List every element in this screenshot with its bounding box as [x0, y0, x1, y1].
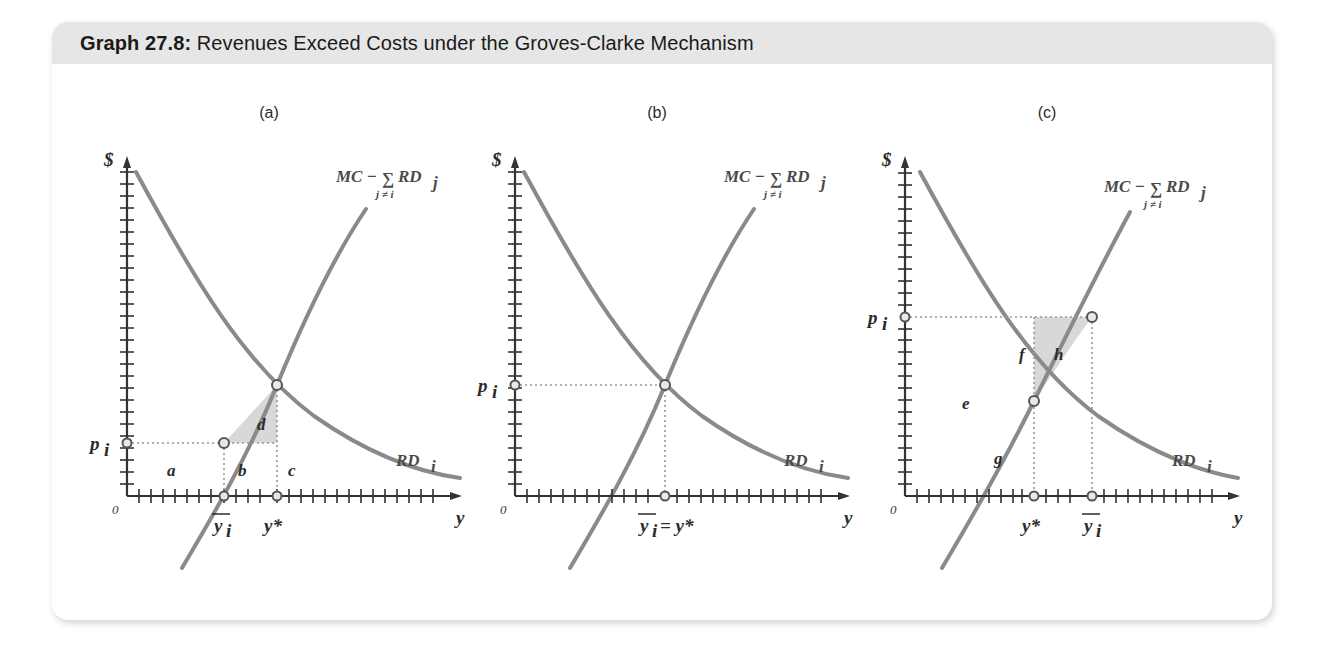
- curve-label-mc-text: MC −: [723, 167, 765, 186]
- svg-text:p: p: [476, 375, 488, 396]
- curve-rd-i: [524, 172, 848, 478]
- curve-label-mc: MC − ∑ j ≠ i RD j: [335, 167, 438, 200]
- marker-reported-price-point: [1087, 312, 1097, 322]
- guide-lines: [515, 385, 665, 496]
- region-label-b: b: [238, 461, 247, 480]
- figure-number: Graph 27.8:: [80, 32, 191, 54]
- marker-price-axis: [511, 381, 520, 390]
- panel-b-chart: $ y 0 p i MC − ∑ j ≠ i RD j: [452, 64, 862, 620]
- svg-text:i: i: [104, 439, 110, 460]
- panel-b: (b): [452, 64, 862, 620]
- svg-text:RD: RD: [783, 451, 808, 470]
- svg-text:i: i: [1207, 457, 1212, 476]
- region-label-h: h: [1054, 345, 1063, 364]
- region-label-c: c: [288, 461, 296, 480]
- svg-text:= y*: = y*: [660, 515, 694, 536]
- svg-text:p: p: [866, 307, 878, 328]
- curve-label-mc: MC − ∑ j ≠ i RD j: [1103, 177, 1206, 210]
- svg-text:RD: RD: [395, 451, 420, 470]
- panels-container: (a): [52, 64, 1272, 620]
- marker-price-axis: [123, 439, 132, 448]
- y-axis-label: $: [881, 149, 892, 170]
- origin-label: 0: [890, 502, 897, 517]
- curve-label-rdj: RD: [1165, 177, 1190, 196]
- panel-c-chart: $ y 0 p i MC − ∑ j ≠ i RD j: [842, 64, 1252, 620]
- curve-label-mc-text: MC −: [335, 167, 377, 186]
- svg-text:y: y: [212, 515, 223, 536]
- curve-label-mc: MC − ∑ j ≠ i RD j: [723, 167, 826, 200]
- svg-text:i: i: [431, 457, 436, 476]
- origin-label: 0: [112, 502, 119, 517]
- y-axis-arrow: [901, 156, 909, 168]
- panel-a-chart: $ y 0 p i MC − ∑ j ≠ i RD j: [64, 64, 474, 620]
- svg-text:i: i: [652, 520, 658, 541]
- region-label-a: a: [167, 461, 176, 480]
- region-label-d: d: [257, 415, 266, 434]
- marker-reported-price-point: [219, 438, 229, 448]
- curve-label-sum-subscript: j ≠ i: [1142, 198, 1163, 210]
- figure-card: Graph 27.8: Revenues Exceed Costs under …: [52, 22, 1272, 620]
- marker-x-efficient: [661, 492, 670, 501]
- price-label-pi: p i: [476, 375, 498, 402]
- curve-label-rdj-sub: j: [818, 173, 826, 192]
- x-axis-arrow: [1228, 492, 1240, 500]
- curve-label-sum-subscript: j ≠ i: [762, 188, 783, 200]
- svg-text:y: y: [638, 515, 649, 536]
- marker-x-reported: [1088, 492, 1097, 501]
- svg-text:i: i: [882, 313, 888, 334]
- price-label-pi: p i: [88, 433, 110, 460]
- xtick-label-ybar: y i: [212, 514, 232, 541]
- marker-price-axis: [901, 313, 910, 322]
- region-label-g: g: [993, 449, 1003, 468]
- svg-text:i: i: [492, 381, 498, 402]
- figure-page: Graph 27.8: Revenues Exceed Costs under …: [0, 0, 1322, 660]
- svg-text:RD: RD: [1171, 451, 1196, 470]
- shaded-region-d: [224, 385, 277, 443]
- curve-label-sigma: ∑: [770, 169, 782, 188]
- panel-c: (c): [842, 64, 1252, 620]
- y-axis-arrow: [511, 156, 519, 168]
- marker-x-efficient: [273, 492, 282, 501]
- curve-rd-i: [136, 172, 460, 478]
- y-axis-label: $: [103, 149, 114, 170]
- xtick-label-ystar: y*: [1020, 515, 1040, 536]
- curve-label-sigma: ∑: [1150, 179, 1162, 198]
- figure-title: Graph 27.8: Revenues Exceed Costs under …: [80, 32, 754, 55]
- y-axis-arrow: [123, 156, 131, 168]
- svg-text:y*: y*: [262, 515, 282, 536]
- marker-intersection: [1029, 396, 1039, 406]
- panel-a: (a): [64, 64, 474, 620]
- region-label-e: e: [962, 394, 970, 413]
- curve-label-rdj-sub: j: [1198, 183, 1206, 202]
- region-label-f: f: [1019, 345, 1027, 364]
- xtick-label-ystar: y*: [262, 515, 282, 536]
- svg-text:p: p: [88, 433, 100, 454]
- xtick-label-ybar: y i: [1082, 514, 1102, 541]
- curve-label-rdj-sub: j: [430, 173, 438, 192]
- marker-x-efficient: [1030, 492, 1039, 501]
- figure-title-text: Revenues Exceed Costs under the Groves-C…: [197, 32, 754, 54]
- marker-intersection: [660, 380, 670, 390]
- curve-label-sum-subscript: j ≠ i: [374, 188, 395, 200]
- svg-text:i: i: [1096, 520, 1102, 541]
- curve-label-rdj: RD: [785, 167, 810, 186]
- x-axis-label: y: [1232, 507, 1243, 528]
- svg-text:i: i: [819, 457, 824, 476]
- curve-label-rdj: RD: [397, 167, 422, 186]
- marker-x-reported: [220, 492, 229, 501]
- xtick-label-ybar-eq-ystar: y i = y*: [638, 514, 694, 541]
- svg-text:y*: y*: [1020, 515, 1040, 536]
- price-label-pi: p i: [866, 307, 888, 334]
- curve-label-sigma: ∑: [382, 169, 394, 188]
- marker-intersection: [272, 380, 282, 390]
- curve-label-mc-text: MC −: [1103, 177, 1145, 196]
- svg-text:y: y: [1082, 515, 1093, 536]
- svg-text:i: i: [226, 520, 232, 541]
- origin-label: 0: [500, 502, 507, 517]
- y-axis-label: $: [491, 149, 502, 170]
